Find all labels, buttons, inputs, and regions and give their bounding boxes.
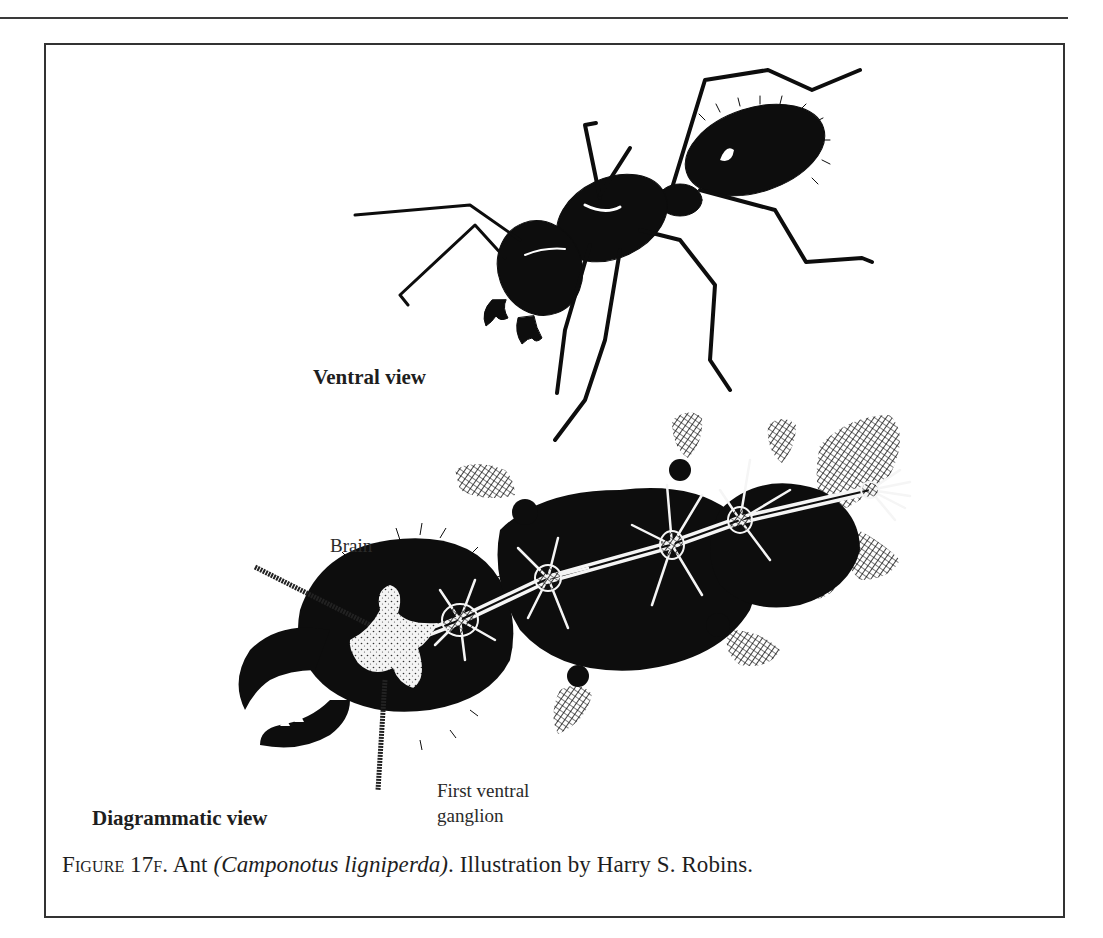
figure-illustrations (0, 0, 1103, 938)
species-name: (Camponotus ligniperda) (213, 852, 448, 877)
figure-caption: Figure 17f. Ant (Camponotus ligniperda).… (62, 852, 753, 878)
ganglion-label-line-1: First ventral (437, 778, 529, 803)
figure-credit: . Illustration by Harry S. Robins. (448, 852, 753, 877)
ant-diagrammatic-illustration (239, 412, 910, 790)
ventral-view-label: Ventral view (313, 367, 426, 388)
figure-number: Figure 17f. (62, 852, 168, 877)
ganglion-label-line-2: ganglion (437, 803, 529, 828)
ant-ventral-illustration (355, 70, 872, 440)
first-ventral-ganglion-label: First ventral ganglion (437, 778, 529, 828)
brain-label: Brain (330, 536, 372, 555)
figure-subject: Ant (173, 852, 208, 877)
ganglion-1 (442, 604, 478, 636)
diagrammatic-view-label: Diagrammatic view (92, 808, 268, 829)
